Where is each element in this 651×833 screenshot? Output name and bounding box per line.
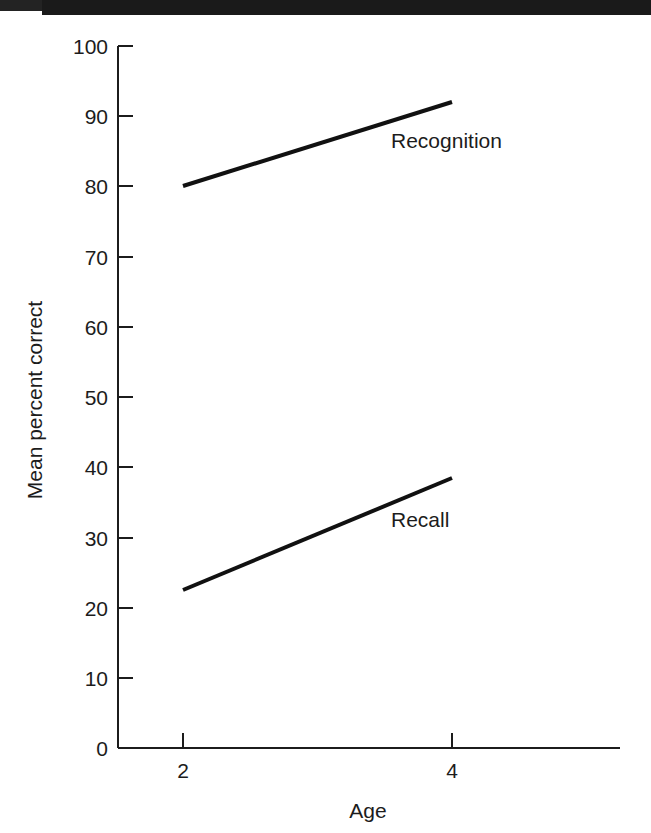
y-tick-label-20: 20 <box>85 597 108 620</box>
y-tick-label-10: 10 <box>85 667 108 690</box>
x-tick-label-2: 2 <box>177 759 189 782</box>
y-axis-title: Mean percent correct <box>23 301 46 500</box>
y-tick-label-50: 50 <box>85 386 108 409</box>
y-tick-label-80: 80 <box>85 175 108 198</box>
line-chart: 100 90 80 70 60 50 40 30 20 10 0 2 4 Age… <box>0 0 651 833</box>
y-tick-label-100: 100 <box>73 35 108 58</box>
y-tick-label-30: 30 <box>85 527 108 550</box>
figure-container: 100 90 80 70 60 50 40 30 20 10 0 2 4 Age… <box>0 0 651 833</box>
y-tick-label-60: 60 <box>85 316 108 339</box>
y-tick-label-40: 40 <box>85 456 108 479</box>
series-line-recall <box>183 478 452 590</box>
y-tick-label-70: 70 <box>85 246 108 269</box>
series-label-recognition: Recognition <box>391 129 502 152</box>
y-axis-tick-labels: 100 90 80 70 60 50 40 30 20 10 0 <box>73 35 108 760</box>
x-axis-title: Age <box>349 799 386 822</box>
x-axis-tick-labels: 2 4 <box>177 759 458 782</box>
x-tick-label-4: 4 <box>446 759 458 782</box>
y-tick-label-0: 0 <box>96 737 108 760</box>
y-tick-label-90: 90 <box>85 105 108 128</box>
y-axis-ticks <box>118 46 133 678</box>
x-axis-ticks <box>183 733 452 748</box>
series-label-recall: Recall <box>391 508 449 531</box>
